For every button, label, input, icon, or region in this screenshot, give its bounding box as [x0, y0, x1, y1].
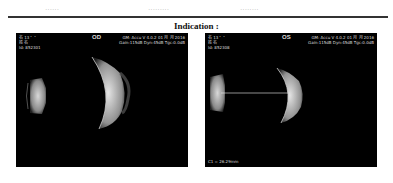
gain-settings: Gain:115dB Dyn:45dB Tgc:0.0dB [308, 40, 374, 45]
divider-rule [8, 16, 388, 18]
gain-settings: Gain:115dB Dyn:45dB Tgc:0.0dB [119, 40, 185, 45]
ultrasound-image-od: 名 13・・ 姓 名 Id: 852301 OD GM: Accu V 4.0.… [16, 33, 188, 167]
ultrasound-echo-graphic [16, 33, 188, 167]
header-cell: ········· [148, 6, 169, 11]
eye-label: OD [92, 34, 101, 41]
header-cell: ······ [45, 6, 59, 11]
header-row: ······ ········· ········ [0, 6, 393, 14]
patient-id: Id: 852308 [208, 45, 230, 50]
ultrasound-echo-graphic [205, 33, 377, 167]
patient-id: Id: 852301 [19, 45, 41, 50]
header-cell: ········ [240, 6, 259, 11]
eye-label: OS [282, 34, 291, 41]
section-title: Indication : [0, 21, 393, 31]
measurement-label: C1 = 26.29mm [208, 159, 238, 164]
ultrasound-image-os: 名 13・・ 姓 名 Id: 852308 OS GM: Accu V 4.0.… [205, 33, 377, 167]
